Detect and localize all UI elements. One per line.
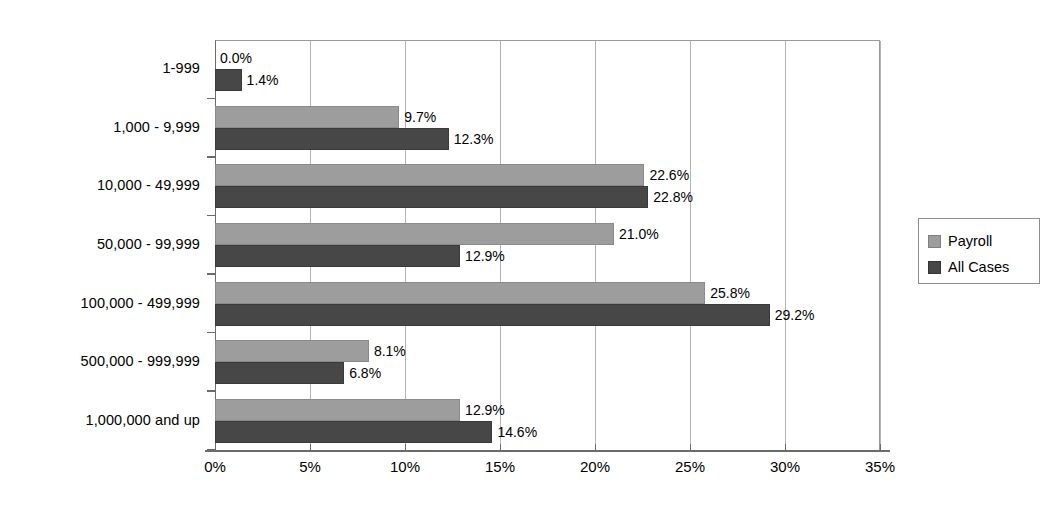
y-axis-category-label: 100,000 - 499,999 (81, 295, 200, 311)
x-axis-tick (310, 444, 311, 451)
y-axis-category-label: 50,000 - 99,999 (97, 236, 200, 252)
y-axis-tick (207, 215, 216, 217)
bar-payroll (215, 340, 369, 362)
x-axis-tick (690, 444, 691, 451)
x-axis-tick (880, 444, 881, 451)
legend-label-all-cases: All Cases (948, 259, 1009, 275)
bar-value-label: 22.6% (649, 164, 689, 186)
bar-all-cases (215, 186, 648, 208)
legend-swatch-payroll (928, 235, 941, 248)
x-axis-label: 5% (299, 458, 321, 475)
x-axis-label: 10% (390, 458, 420, 475)
bar-all-cases (215, 69, 242, 91)
y-axis-tick (207, 273, 216, 275)
y-axis-category-label: 10,000 - 49,999 (97, 177, 200, 193)
bar-value-label: 25.8% (710, 282, 750, 304)
x-axis-label: 30% (770, 458, 800, 475)
x-axis-tick (500, 444, 501, 451)
gridline (690, 41, 691, 450)
x-axis-label: 35% (865, 458, 895, 475)
legend-label-payroll: Payroll (948, 233, 992, 249)
x-axis-label: 15% (485, 458, 515, 475)
bar-all-cases (215, 304, 770, 326)
bar-value-label: 21.0% (619, 223, 659, 245)
bar-value-label: 14.6% (497, 421, 537, 443)
y-axis-tick (207, 390, 216, 392)
bar-all-cases (215, 128, 449, 150)
bar-value-label: 12.9% (465, 399, 505, 421)
y-axis-tick (207, 156, 216, 158)
bar-all-cases (215, 421, 492, 443)
legend-item-payroll: Payroll (928, 228, 1039, 254)
bar-value-label: 9.7% (404, 106, 436, 128)
y-axis-category-label: 500,000 - 999,999 (81, 353, 200, 369)
legend-swatch-all-cases (928, 261, 941, 274)
bar-value-label: 12.9% (465, 245, 505, 267)
gridline (880, 41, 881, 450)
y-axis-category-label: 1-999 (162, 60, 200, 76)
bar-payroll (215, 399, 460, 421)
y-axis-category-label: 1,000,000 and up (86, 412, 201, 428)
bar-value-label: 22.8% (653, 186, 693, 208)
x-axis-tick (595, 444, 596, 451)
y-axis-tick (207, 98, 216, 100)
bar-value-label: 6.8% (349, 362, 381, 384)
bar-payroll (215, 106, 399, 128)
y-axis-tick (207, 332, 216, 334)
bar-value-label: 1.4% (247, 69, 279, 91)
gridline (785, 41, 786, 450)
bar-all-cases (215, 245, 460, 267)
x-axis-label: 25% (675, 458, 705, 475)
chart-legend: Payroll All Cases (918, 218, 1040, 284)
bar-value-label: 8.1% (374, 340, 406, 362)
x-axis-tick (785, 444, 786, 451)
x-axis-label: 0% (204, 458, 226, 475)
bar-value-label: 12.3% (454, 128, 494, 150)
y-axis-category-label: 1,000 - 9,999 (113, 119, 200, 135)
bar-value-label: 0.0% (220, 47, 252, 69)
bar-payroll (215, 282, 705, 304)
bar-payroll (215, 164, 644, 186)
legend-item-all-cases: All Cases (928, 254, 1039, 280)
bar-value-label: 29.2% (775, 304, 815, 326)
bar-chart: 0%5%10%15%20%25%30%35%1-9990.0%1.4%1,000… (0, 0, 1062, 516)
x-axis-tick (405, 444, 406, 451)
bar-payroll (215, 223, 614, 245)
x-axis-line (205, 450, 890, 452)
y-axis-tick (207, 449, 216, 451)
gridline (595, 41, 596, 450)
bar-all-cases (215, 362, 344, 384)
x-axis-label: 20% (580, 458, 610, 475)
